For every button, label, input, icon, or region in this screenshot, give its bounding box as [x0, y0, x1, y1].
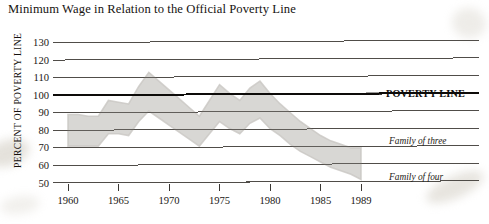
x-tick-label: 1965 — [108, 195, 129, 206]
x-axis — [60, 181, 479, 191]
y-axis-title: PERCENT OF POVERTY LINE — [12, 33, 23, 168]
x-tick-label: 1985 — [310, 195, 331, 206]
y-tick-label: 60 — [38, 160, 49, 171]
poverty-line-legend: POVERTY LINE — [366, 88, 465, 99]
y-tick-label: 90 — [38, 107, 49, 118]
y-tick-label: 80 — [38, 125, 49, 136]
y-tick-label: 130 — [33, 37, 49, 48]
x-tick-label: 1980 — [259, 195, 280, 206]
series-label-family-of-three: Family of three — [388, 136, 446, 146]
x-tick-label: 1960 — [57, 195, 78, 206]
poverty-line-label: POVERTY LINE — [386, 88, 465, 99]
y-tick-label: 110 — [34, 72, 50, 83]
y-tick-label: 100 — [33, 90, 49, 101]
x-tick-label: 1970 — [158, 195, 179, 206]
x-tick-label: 1975 — [209, 195, 230, 206]
y-tick-label: 50 — [38, 178, 49, 189]
data-band-area — [68, 72, 361, 179]
x-tick-label: 1989 — [350, 195, 371, 206]
series-label-family-of-four: Family of four — [388, 172, 444, 182]
y-tick-label: 70 — [38, 142, 49, 153]
y-tick-label: 120 — [33, 55, 49, 66]
y-axis-tick-labels: 5060708090100110120130 — [33, 37, 49, 189]
x-axis-tick-labels: 1960196519701975198019851989 — [57, 195, 371, 206]
